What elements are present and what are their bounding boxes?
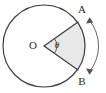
arc-arrow-head-top <box>86 17 93 23</box>
arc-arrow-head-bottom <box>86 68 93 74</box>
label-point-a: A <box>78 3 86 15</box>
circle-sector-diagram: O A B θ <box>0 0 106 93</box>
shaded-sector-aob <box>44 22 86 70</box>
label-point-b: B <box>78 75 85 87</box>
label-angle-theta: θ <box>55 40 60 50</box>
label-center-o: O <box>29 39 37 51</box>
arc-arrow-path <box>90 21 99 72</box>
geometry-figure: O A B θ <box>0 0 106 93</box>
